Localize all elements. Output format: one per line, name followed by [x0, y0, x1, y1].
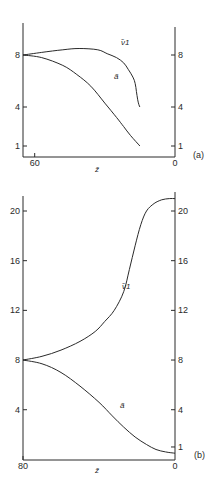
y-tick-label-left: 4 — [15, 405, 20, 415]
figure: 841 841 600 ν̃1 ã z̃ (a) 20161284 201612… — [0, 0, 222, 490]
series-line-a — [23, 360, 175, 453]
series-group — [23, 199, 175, 454]
y-tick-label-right: 1 — [178, 141, 183, 151]
y-tick-label-left: 8 — [15, 50, 20, 60]
y-tick-label-right: 12 — [178, 305, 188, 315]
series-line-nu1 — [23, 199, 175, 360]
y-tick-label-right: 8 — [178, 355, 183, 365]
x-tick-label: 60 — [30, 158, 40, 168]
chart-panel-a: 841 841 600 ν̃1 ã z̃ (a) — [15, 23, 204, 174]
x-tick-label: 80 — [18, 461, 28, 471]
panel-label: (a) — [193, 150, 204, 160]
chart-panel-b: 20161284 201612841 800 ν̃1 ã z̃ (b) — [10, 192, 205, 475]
y-ticks-left: 20161284 — [10, 206, 27, 415]
panel-label: (b) — [194, 450, 205, 460]
series-label-nu1: ν̃1 — [122, 282, 130, 291]
y-tick-label-left: 16 — [10, 256, 20, 266]
x-axis-label: z̃ — [94, 165, 100, 174]
y-tick-label-right: 1 — [178, 442, 183, 452]
series-label-nu1: ν̃1 — [121, 38, 129, 47]
series-group — [23, 49, 140, 147]
x-ticks: 600 — [30, 153, 178, 168]
x-tick-label: 0 — [172, 158, 177, 168]
y-tick-label-left: 20 — [10, 206, 20, 216]
y-tick-label-right: 4 — [178, 102, 183, 112]
y-tick-label-right: 8 — [178, 50, 183, 60]
x-axis-label: z̃ — [94, 466, 100, 475]
y-ticks-right: 201612841 — [171, 206, 188, 452]
y-tick-label-right: 20 — [178, 206, 188, 216]
y-tick-label-left: 12 — [10, 305, 20, 315]
y-ticks-right: 841 — [171, 50, 183, 151]
y-tick-label-left: 8 — [15, 355, 20, 365]
y-tick-label-right: 16 — [178, 256, 188, 266]
y-tick-label-left: 1 — [15, 141, 20, 151]
series-label-a: ã — [120, 401, 125, 410]
x-tick-label: 0 — [172, 461, 177, 471]
series-line-a — [23, 55, 140, 146]
y-tick-label-right: 4 — [178, 405, 183, 415]
y-tick-label-left: 4 — [15, 102, 20, 112]
y-ticks-left: 841 — [15, 50, 27, 151]
series-label-a: ã — [114, 72, 119, 81]
